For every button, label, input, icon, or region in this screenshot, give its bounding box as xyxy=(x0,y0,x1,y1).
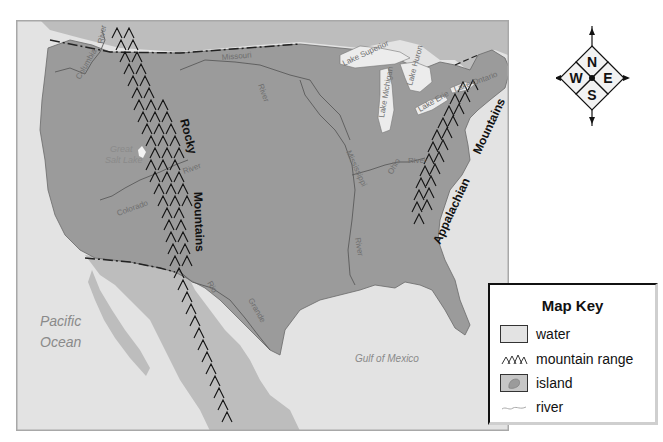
legend-item-mountain-range: mountain range xyxy=(500,350,633,368)
legend-item-island: island xyxy=(500,374,573,392)
compass-west-label: W xyxy=(569,70,583,86)
compass-north-label: N xyxy=(587,54,597,70)
legend-item-river: river xyxy=(500,398,563,416)
water-swatch xyxy=(500,325,528,343)
legend-label: river xyxy=(536,399,563,415)
gulf-of-mexico-label: Gulf of Mexico xyxy=(355,353,419,364)
mountain-range-icon xyxy=(500,350,528,368)
legend-label: island xyxy=(536,375,573,391)
ohio-river-word-label: River xyxy=(408,156,427,165)
island-swatch xyxy=(500,374,528,392)
legend-label: water xyxy=(536,326,570,342)
legend-label: mountain range xyxy=(536,351,633,367)
rocky-mountains-label: Mountains xyxy=(191,192,207,253)
legend-item-water: water xyxy=(500,325,570,343)
map: Pacific Ocean Atlantic Ocean Gulf of Mex… xyxy=(16,20,509,431)
compass-south-label: S xyxy=(587,87,596,103)
map-key-title: Map Key xyxy=(490,297,655,314)
compass-rose: N S E W xyxy=(556,26,636,126)
map-key: Map Key water mountain range island rive… xyxy=(488,283,658,425)
river-icon xyxy=(500,398,528,416)
compass-east-label: E xyxy=(603,70,612,86)
